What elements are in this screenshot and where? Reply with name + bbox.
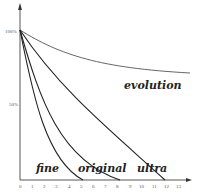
x-tick: 1: [31, 184, 34, 189]
x-tick: 10: [139, 184, 145, 189]
x-tick: 12: [164, 184, 170, 189]
curve-ultra: [20, 30, 165, 180]
x-tick: 8: [116, 184, 119, 189]
curve-evolution: [20, 30, 190, 73]
curve-original: [20, 30, 120, 180]
x-tick: 6: [92, 184, 95, 189]
x-tick: 4: [68, 184, 71, 189]
x-tick: 13: [176, 184, 182, 189]
x-tick: 0: [19, 184, 22, 189]
x-tick: 9: [129, 184, 132, 189]
y-axis-arrow-icon: [18, 3, 22, 10]
x-tick-labels: 0 1 2 3 4 5 6 7 8 9 10 11 12 13: [19, 184, 182, 189]
y-tick-50: 50%: [9, 102, 18, 107]
x-tick: 3: [55, 184, 58, 189]
label-ultra: ultra: [137, 162, 167, 175]
label-evolution: evolution: [124, 79, 182, 92]
label-fine: fine: [35, 162, 59, 175]
x-tick: 5: [80, 184, 83, 189]
curve-fine: [20, 30, 83, 180]
decay-curves-chart: 100% 50% 0 1 2 3 4 5 6 7 8 9 10 11 12 13…: [0, 0, 203, 196]
x-tick: 11: [152, 184, 157, 189]
x-axis-arrow-icon: [186, 178, 192, 182]
x-tick: 7: [104, 184, 107, 189]
label-original: original: [78, 162, 127, 175]
x-tick: 2: [43, 184, 46, 189]
y-tick-100: 100%: [5, 29, 17, 34]
